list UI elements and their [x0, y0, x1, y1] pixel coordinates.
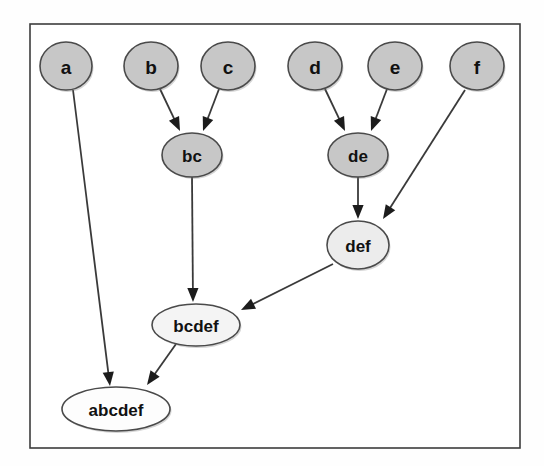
node-de-label: de [348, 147, 368, 166]
node-abcdef[interactable]: abcdef [62, 387, 172, 433]
node-bcdef-label: bcdef [173, 317, 219, 336]
node-d-label: d [309, 57, 321, 78]
edge-bc-bcdef-line [192, 177, 193, 291]
node-e-label: e [390, 57, 401, 78]
node-c-label: c [223, 57, 234, 78]
graph-canvas: abcdefbcdedefbcdefabcdef [0, 0, 544, 466]
node-bc-label: bc [182, 147, 202, 166]
node-abcdef-label: abcdef [89, 401, 144, 420]
node-f-label: f [474, 57, 481, 78]
node-b-label: b [145, 57, 157, 78]
node-def-label: def [345, 237, 371, 256]
node-a-label: a [61, 57, 72, 78]
diagram-root: abcdefbcdedefbcdefabcdef [0, 0, 544, 466]
diagram-frame [30, 24, 520, 448]
